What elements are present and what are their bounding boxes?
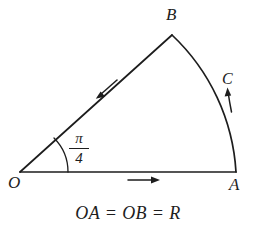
figure-caption: OA = OB = R [0,203,256,224]
sector-diagram: O A B C π 4 OA = OB = R [0,0,256,238]
direction-arrow-OB [96,80,117,99]
vertex-label-B: B [166,6,176,23]
direction-arrow-OA [128,177,160,184]
segment-OB [20,35,172,172]
fraction-bar [69,148,89,149]
angle-label-pi-over-4: π 4 [68,131,90,167]
vertex-label-O: O [8,174,20,191]
angle-arc-marker [54,138,68,172]
angle-denominator: 4 [68,150,90,167]
vertex-label-C: C [222,71,233,87]
arc-AB [172,35,236,172]
direction-arrow-arc [225,88,232,113]
angle-numerator: π [68,131,90,148]
vertex-label-A: A [229,176,239,193]
